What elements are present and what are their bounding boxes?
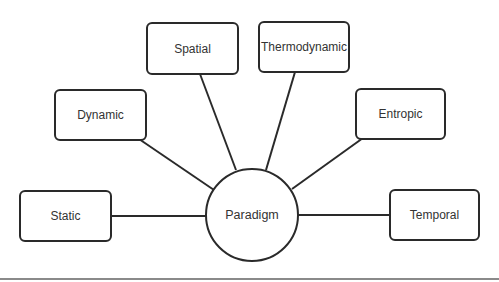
- node-label: Thermodynamic: [261, 40, 347, 54]
- node-label: Entropic: [378, 107, 422, 121]
- node-label: Temporal: [410, 208, 459, 222]
- edge-dynamic: [139, 139, 214, 190]
- node-label: Spatial: [174, 42, 211, 56]
- node-spatial: Spatial: [146, 22, 239, 75]
- edge-spatial: [200, 74, 236, 170]
- edge-entropic: [292, 138, 363, 189]
- node-entropic: Entropic: [355, 88, 446, 140]
- node-static: Static: [19, 190, 112, 242]
- node-label: Static: [50, 209, 80, 223]
- edge-thermodynamic: [266, 72, 295, 170]
- node-label: Dynamic: [77, 108, 124, 122]
- node-temporal: Temporal: [389, 189, 480, 241]
- node-thermodynamic: Thermodynamic: [258, 21, 350, 73]
- bottom-divider: [0, 278, 499, 280]
- node-dynamic: Dynamic: [54, 89, 147, 141]
- hub-paradigm: Paradigm: [205, 168, 299, 262]
- hub-label: Paradigm: [225, 208, 279, 222]
